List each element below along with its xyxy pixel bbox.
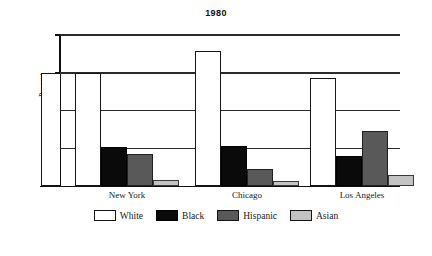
legend-swatch-black-icon <box>156 210 178 221</box>
legend-item-black[interactable]: Black <box>156 210 204 221</box>
gridline-80 <box>60 34 400 36</box>
bar-new-york-white <box>75 73 101 186</box>
bar-los-angeles-hispanic <box>362 131 388 186</box>
legend-swatch-asian-icon <box>290 210 312 221</box>
legend-label: White <box>120 211 143 221</box>
gridline-40 <box>60 110 400 112</box>
chart-title: 1980 <box>0 8 432 18</box>
legend-label: Black <box>182 211 204 221</box>
bar-new-york-asian <box>153 180 179 186</box>
gridline-60 <box>60 72 400 74</box>
x-axis-label-chicago: Chicago <box>197 190 297 200</box>
clipped-edge-bar <box>41 73 60 186</box>
legend-label: Hispanic <box>243 211 277 221</box>
bar-chicago-black <box>221 146 247 186</box>
legend-label: Asian <box>316 211 338 221</box>
bar-los-angeles-white <box>310 78 336 186</box>
legend-item-asian[interactable]: Asian <box>290 210 338 221</box>
x-axis-label-new-york: New York <box>77 190 177 200</box>
legend-item-white[interactable]: White <box>94 210 143 221</box>
legend-item-hispanic[interactable]: Hispanic <box>217 210 277 221</box>
chart-legend: WhiteBlackHispanicAsian <box>0 210 432 221</box>
x-axis-label-los-angeles: Los Angeles <box>312 190 412 200</box>
bar-los-angeles-black <box>336 156 362 186</box>
legend-swatch-white-icon <box>94 210 116 221</box>
bar-new-york-hispanic <box>127 154 153 186</box>
bar-los-angeles-asian <box>388 175 414 186</box>
bar-chicago-hispanic <box>247 169 273 186</box>
y-tick-80 <box>55 34 60 36</box>
plot-area: 020406080 Percent <box>60 35 400 186</box>
bar-chart: 1980 020406080 Percent New YorkChicagoLo… <box>0 0 432 256</box>
legend-swatch-hispanic-icon <box>217 210 239 221</box>
bar-new-york-black <box>101 147 127 186</box>
bar-chicago-asian <box>273 181 299 186</box>
bar-chicago-white <box>195 51 221 186</box>
